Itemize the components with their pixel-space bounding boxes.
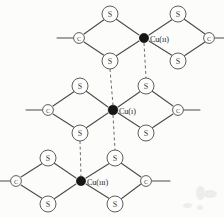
sulfur-atom-label: S (144, 82, 148, 91)
sulfur-atom-label: S (78, 82, 82, 91)
bridging-bond (80, 141, 81, 176)
carbon-atom-label: C (207, 35, 211, 42)
sulfur-atom: S (40, 150, 56, 166)
ring-bond (21, 185, 43, 199)
ring-bond (152, 91, 173, 106)
carbon-atom: C (11, 176, 22, 187)
copper-node (139, 33, 148, 42)
copper-node (76, 176, 85, 185)
carbon-atom-label: C (77, 35, 81, 42)
sulfur-atom: S (170, 6, 186, 22)
ring-bond (54, 184, 76, 199)
ring-bond (116, 41, 139, 56)
sulfur-atom: S (40, 196, 56, 212)
chemical-structure-figure: SSSSSSSSSSSS CCCCCC Cu(ıı)Cu(ı)Cu(ııı) (0, 0, 224, 217)
sulfur-atom: S (138, 78, 154, 94)
metal-center-layer: Cu(ıı)Cu(ı)Cu(ııı) (76, 33, 169, 186)
metal-center: Cu(ıı) (139, 33, 169, 43)
ring-bond (53, 114, 75, 128)
ring-bond (152, 114, 173, 128)
carbon-atom-label: C (144, 178, 148, 185)
carbon-atom: C (204, 33, 215, 44)
sulfur-atom-label: S (46, 200, 50, 209)
carbon-atom: C (173, 105, 184, 116)
scan-artifact-layer (183, 186, 217, 210)
ring-bond (121, 163, 141, 177)
sulfur-atom-label: S (176, 10, 180, 19)
ring-bond (118, 91, 141, 107)
scan-speck (203, 190, 217, 198)
copper-node (108, 105, 118, 115)
ring-bond (54, 163, 76, 178)
ring-bond (86, 163, 110, 178)
sulfur-atom: S (107, 150, 123, 166)
ring-bond (84, 42, 105, 56)
sulfur-atom: S (72, 78, 88, 94)
ring-bond (116, 19, 139, 35)
metal-center: Cu(ı) (108, 105, 136, 115)
ring-bond (184, 42, 205, 56)
bridging-bond (113, 115, 115, 150)
sulfur-atom: S (107, 196, 123, 212)
scan-speck (197, 205, 203, 210)
metal-center: Cu(ııı) (76, 176, 108, 186)
sulfur-atom-label: S (108, 57, 112, 66)
ring-bond (53, 91, 75, 106)
sulfur-atom: S (138, 125, 154, 141)
ring-bond (86, 113, 108, 128)
copper-label: Cu(ıı) (150, 35, 169, 44)
sulfur-atom: S (170, 53, 186, 69)
bridging-bond (144, 43, 146, 78)
carbon-atom-label: C (46, 107, 50, 114)
sulfur-atom-label: S (144, 129, 148, 138)
scan-speck (183, 203, 192, 208)
carbon-atom: C (74, 33, 85, 44)
ring-bond (149, 19, 173, 35)
carbon-atom: C (43, 105, 54, 116)
bridging-bond (110, 69, 113, 105)
sulfur-atom: S (102, 6, 118, 22)
ring-bond (184, 19, 205, 34)
copper-label: Cu(ııı) (87, 178, 109, 187)
sulfur-atom-label: S (113, 200, 117, 209)
structure-canvas: SSSSSSSSSSSS CCCCCC Cu(ıı)Cu(ı)Cu(ııı) (0, 0, 224, 217)
sulfur-atom-label: S (78, 129, 82, 138)
copper-label: Cu(ı) (119, 107, 136, 116)
carbon-atom-label: C (14, 178, 18, 185)
ring-bond (121, 184, 141, 199)
sulfur-atom-label: S (113, 154, 117, 163)
ring-bond (21, 163, 43, 177)
sulfur-atom-label: S (176, 57, 180, 66)
carbon-atom: C (141, 176, 152, 187)
ring-bond (86, 91, 108, 107)
sulfur-atom: S (72, 125, 88, 141)
ring-bond (84, 19, 105, 34)
sulfur-atom-label: S (108, 10, 112, 19)
sulfur-atom-label: S (46, 154, 50, 163)
carbon-atom-label: C (176, 107, 180, 114)
sulfur-atom: S (102, 53, 118, 69)
